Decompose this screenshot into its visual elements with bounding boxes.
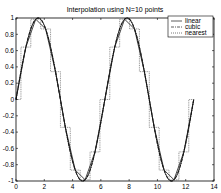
x-tick-label: 4 — [71, 183, 75, 190]
chart-title: Interpolation using N=10 points — [67, 6, 164, 14]
y-tick-label: -0.2 — [3, 112, 15, 119]
y-tick-label: 0.8 — [5, 31, 14, 38]
legend: linear cubic nearest — [168, 16, 213, 37]
x-tick-label: 12 — [182, 183, 190, 190]
y-tick-label: 1 — [10, 14, 14, 21]
series-true-sine — [16, 18, 194, 181]
legend-label-nearest: nearest — [185, 29, 207, 36]
y-tick-label: 0.4 — [5, 63, 14, 70]
x-tick-label: 0 — [14, 183, 18, 190]
interpolation-chart: Interpolation using N=10 points 02468101… — [0, 0, 221, 193]
x-tick-label: 6 — [99, 183, 103, 190]
y-tick-label: -1 — [8, 177, 14, 184]
x-tick-label: 2 — [42, 183, 46, 190]
y-tick-label: 0.2 — [5, 79, 14, 86]
plot-area — [16, 18, 194, 181]
x-tick-label: 10 — [154, 183, 162, 190]
x-tick-label: 8 — [127, 183, 131, 190]
y-tick-label: -0.4 — [3, 128, 15, 135]
axes-frame — [16, 18, 214, 181]
y-tick-label: 0.6 — [5, 47, 14, 54]
y-tick-label: -0.6 — [3, 145, 15, 152]
y-tick-label: 0 — [10, 96, 14, 103]
x-tick-label: 14 — [210, 183, 218, 190]
y-tick-label: -0.8 — [3, 161, 15, 168]
